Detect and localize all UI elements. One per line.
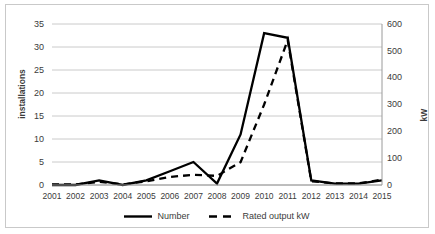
legend-item-number[interactable]: Number bbox=[124, 211, 189, 221]
y-tick-right: 300 bbox=[387, 100, 417, 109]
plot-area bbox=[52, 24, 382, 185]
chart-legend: Number Rated output kW bbox=[52, 211, 382, 221]
y-tick-right: 600 bbox=[387, 20, 417, 29]
chart-container: 35 30 25 20 15 10 5 0 600 500 400 300 20… bbox=[0, 0, 435, 234]
y-tick-left: 0 bbox=[14, 181, 44, 190]
legend-swatch-solid bbox=[124, 212, 152, 221]
y-tick-left: 5 bbox=[14, 158, 44, 167]
plot-svg bbox=[52, 24, 382, 185]
y-axis-right-title: kW bbox=[419, 100, 429, 130]
chart-frame: 35 30 25 20 15 10 5 0 600 500 400 300 20… bbox=[5, 4, 429, 228]
x-tick: 2015 bbox=[367, 192, 397, 201]
gridlines bbox=[52, 24, 382, 185]
legend-item-rated-output[interactable]: Rated output kW bbox=[209, 211, 309, 221]
y-tick-left: 35 bbox=[14, 20, 44, 29]
y-axis-left-title: installations bbox=[17, 49, 27, 139]
legend-label: Rated output kW bbox=[242, 211, 309, 221]
y-tick-right: 0 bbox=[387, 181, 417, 190]
y-tick-right: 400 bbox=[387, 73, 417, 82]
legend-label: Number bbox=[157, 211, 189, 221]
y-tick-right: 100 bbox=[387, 154, 417, 163]
y-tick-right: 200 bbox=[387, 127, 417, 136]
legend-swatch-dashed bbox=[209, 212, 237, 221]
y-tick-right: 500 bbox=[387, 47, 417, 56]
series-line-rated-output-kw bbox=[52, 40, 382, 184]
